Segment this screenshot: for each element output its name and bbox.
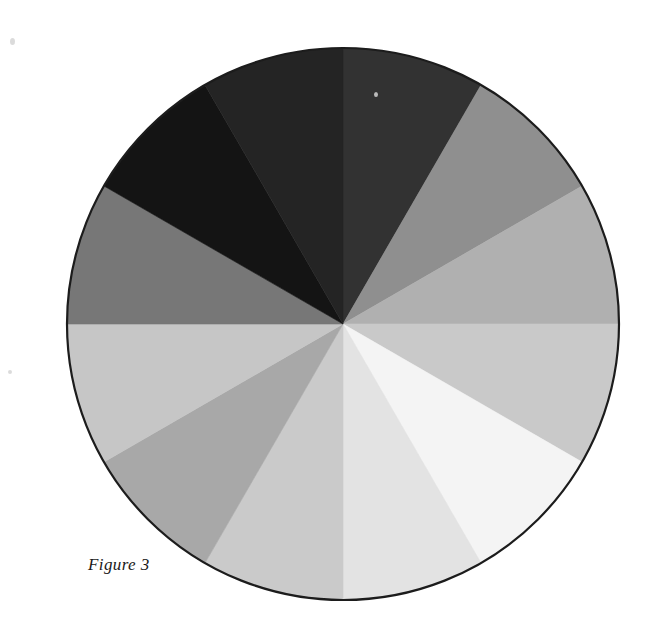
figure-caption: Figure 3 (88, 555, 150, 575)
figure-container: Figure 3 (0, 0, 653, 633)
grayscale-value-wheel (0, 0, 653, 633)
page-speck-artifact (8, 370, 12, 374)
scan-speck-artifact (374, 92, 378, 97)
page-speck-artifact (10, 38, 15, 45)
